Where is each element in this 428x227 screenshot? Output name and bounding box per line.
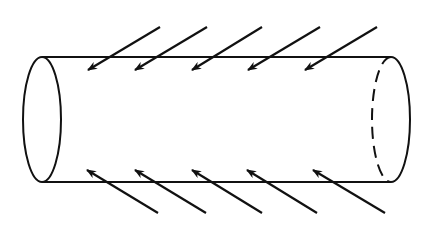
top-arrow-4 — [248, 27, 320, 70]
right-end-hidden-arc — [372, 57, 391, 182]
top-arrow-group — [88, 27, 377, 70]
top-arrow-5 — [305, 27, 377, 70]
top-arrow-3 — [192, 27, 262, 70]
right-end-front-arc — [391, 57, 410, 182]
cylinder-diagram — [0, 0, 428, 227]
cylinder — [23, 57, 410, 182]
bottom-arrow-4 — [247, 170, 317, 213]
top-arrow-1 — [88, 27, 160, 70]
bottom-arrow-5 — [313, 170, 385, 213]
top-arrow-2 — [135, 27, 207, 70]
left-end-ellipse — [23, 57, 61, 182]
bottom-arrow-3 — [192, 170, 262, 213]
bottom-arrow-group — [87, 170, 385, 213]
